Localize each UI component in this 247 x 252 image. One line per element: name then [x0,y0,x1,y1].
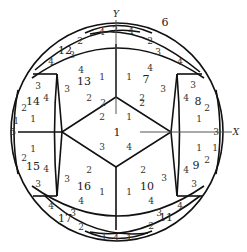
edge-label: 4 [43,165,49,174]
edge-label: 1 [126,73,132,82]
edge-label: 4 [126,143,132,152]
edge-label: 1 [126,113,132,122]
edge-label: 1 [196,115,202,124]
face-label: 8 [195,96,202,107]
edge-label: 4 [43,94,49,103]
edge-label: 2 [140,166,146,175]
face-label: 13 [77,76,91,87]
edge-label: 3 [190,81,196,90]
edge-label: 1 [99,73,105,82]
edge-label: 4 [113,234,119,243]
edge-label: 3 [161,174,167,183]
edge-label: 3 [69,51,75,60]
face-label: 10 [140,181,154,192]
edge-label: 4 [177,58,183,67]
edge-label: 2 [86,166,92,175]
edge-label: 1 [196,144,202,153]
edge-label: 2 [139,99,145,108]
edge-label: 1 [126,234,132,243]
face-label: 1 [114,127,121,138]
edge-label: 3 [191,180,197,189]
x-axis-label: X [233,128,239,137]
edge-label: 3 [155,48,161,57]
edge-label: 3 [64,85,70,94]
edge-label: 2 [147,37,153,46]
edge-label: 4 [183,94,189,103]
edge-label: 2 [100,99,106,108]
face-label: 7 [143,74,150,85]
edge-label: 1 [30,145,36,154]
edge-label: 4 [99,28,105,37]
edge-label: 1 [99,188,105,197]
edge-label: 4 [147,64,153,73]
edge-label: 2 [78,223,84,232]
edge-label: 3 [160,85,166,94]
edge-label: 2 [77,37,83,46]
face-label: 6 [162,17,169,28]
edge-label: 4 [183,166,189,175]
edge-label: 4 [48,58,54,67]
edge-label: 1 [30,115,36,124]
edge-label: 3 [99,143,105,152]
edge-label: 4 [78,66,84,75]
edge-label: 3 [213,128,219,137]
edge-label: 2 [112,26,118,35]
edge-label: 3 [35,180,41,189]
face-label: 14 [26,96,40,107]
y-axis-label: Y [113,10,119,19]
face-label: 9 [193,160,200,171]
edge-label: 4 [177,202,183,211]
edge-label: 2 [21,104,27,113]
edge-label: 1 [101,233,107,242]
edge-label: 1 [126,188,132,197]
edge-label: 1 [212,144,218,153]
edge-label: 3 [64,175,70,184]
edge-label: 2 [204,156,210,165]
edge-label: 2 [204,104,210,113]
edge-label: 4 [128,27,134,36]
edge-label: 2 [86,94,92,103]
edge-label: 5 [10,128,16,137]
edge-label: 2 [21,154,27,163]
edge-label: 3 [156,209,162,218]
edge-label: 2 [148,222,154,231]
edge-label: 3 [70,209,76,218]
edge-label: 2 [99,113,105,122]
edge-label: 4 [78,197,84,206]
edge-label: 4 [148,197,154,206]
face-label: 16 [77,181,91,192]
edge-label: 4 [48,202,54,211]
edge-label: 1 [13,117,19,126]
ball-panel-diagram: Y X 167891011121314151617 42423423441321… [0,0,247,252]
edge-label: 3 [35,82,41,91]
face-label: 15 [26,161,40,172]
diagram-lines [0,0,247,252]
